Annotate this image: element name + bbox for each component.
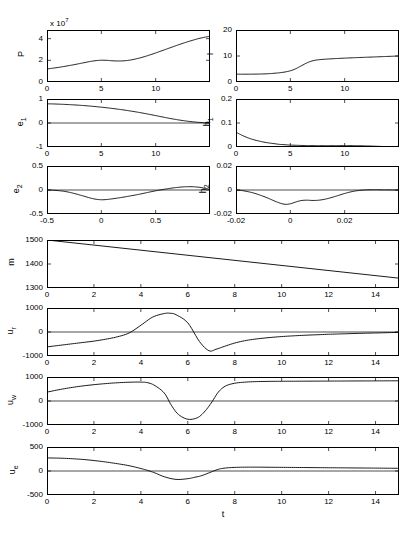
x-tick-label: 8 — [221, 358, 249, 367]
x-tick-label: 14 — [362, 427, 390, 436]
x-tick-label: 0 — [33, 149, 61, 158]
x-tick-label: 12 — [315, 358, 343, 367]
y-axis-label-P: P — [16, 42, 26, 66]
data-series-h1 — [236, 132, 399, 147]
x-tick-label: 6 — [174, 427, 202, 436]
x-tick-label: -0.5 — [33, 216, 61, 225]
plot-area-h2 — [236, 166, 399, 214]
y-tick-label: 1500 — [3, 235, 43, 244]
data-series-P — [47, 36, 210, 69]
data-series-m — [47, 240, 399, 278]
x-tick-label: 6 — [174, 497, 202, 506]
data-series-e1 — [47, 104, 210, 123]
x-tick-label: -0.02 — [222, 216, 250, 225]
plot-area-uw — [47, 377, 399, 425]
data-series-e2 — [47, 187, 210, 200]
x-tick-label: 0 — [87, 216, 115, 225]
x-axis-label: t — [208, 509, 238, 519]
x-tick-label: 2 — [80, 427, 108, 436]
subplot-ue — [47, 447, 399, 495]
y-tick-label: 1 — [3, 94, 43, 103]
data-series-uw — [47, 381, 399, 420]
y-axis-label-h1: h1 — [202, 110, 214, 134]
plot-area-P — [47, 30, 210, 82]
y-tick-label: 1000 — [3, 303, 43, 312]
x-tick-label: 5 — [87, 84, 115, 93]
x-tick-label: 14 — [362, 358, 390, 367]
x-tick-label: 4 — [127, 358, 155, 367]
x-tick-label: 0 — [33, 290, 61, 299]
x-tick-label: 0 — [33, 358, 61, 367]
data-series-ue — [47, 458, 399, 480]
subplot-uw — [47, 377, 399, 425]
x-tick-label: 10 — [268, 290, 296, 299]
subplot-e1 — [47, 99, 210, 147]
y-tick-label: 500 — [3, 442, 43, 451]
x-tick-label: 0 — [33, 427, 61, 436]
subplot-m — [47, 240, 399, 288]
x-tick-label: 6 — [174, 358, 202, 367]
x-tick-label: 2 — [80, 358, 108, 367]
x-tick-label: 14 — [362, 290, 390, 299]
y-axis-exponent: x 107 — [50, 17, 68, 28]
x-tick-label: 10 — [268, 358, 296, 367]
plot-area-h1 — [236, 99, 399, 147]
x-tick-label: 0 — [222, 149, 250, 158]
x-tick-label: 6 — [174, 290, 202, 299]
x-tick-label: 10 — [331, 84, 359, 93]
x-tick-label: 4 — [127, 290, 155, 299]
y-axis-label-e2: e2 — [11, 177, 23, 201]
y-axis-label-h2: h2 — [198, 177, 210, 201]
x-tick-label: 0 — [33, 497, 61, 506]
x-tick-label: 0 — [222, 84, 250, 93]
subplot-P — [47, 30, 210, 82]
x-tick-label: 10 — [331, 149, 359, 158]
y-axis-label-uw: uw — [5, 388, 17, 412]
subplot-h2 — [236, 166, 399, 214]
figure-canvas: 0240510P010200510I-1010510e100.10.20510h… — [0, 0, 405, 539]
y-axis-label-ur: ur — [5, 319, 17, 343]
data-series-h2 — [236, 190, 399, 205]
x-tick-label: 4 — [127, 497, 155, 506]
x-tick-label: 8 — [221, 427, 249, 436]
y-tick-label: 20 — [192, 25, 232, 34]
x-tick-label: 5 — [87, 149, 115, 158]
subplot-ur — [47, 308, 399, 356]
plot-area-ue — [47, 447, 399, 495]
x-tick-label: 10 — [142, 84, 170, 93]
plot-area-I — [236, 30, 399, 82]
data-series-I — [236, 56, 399, 74]
plot-area-ur — [47, 308, 399, 356]
x-tick-label: 12 — [315, 497, 343, 506]
x-tick-label: 2 — [80, 290, 108, 299]
y-axis-label-e1: e1 — [15, 110, 27, 134]
y-tick-label: 0.02 — [192, 161, 232, 170]
x-tick-label: 8 — [221, 497, 249, 506]
y-tick-label: 0.2 — [192, 94, 232, 103]
y-tick-label: 0.5 — [3, 161, 43, 170]
subplot-e2 — [47, 166, 210, 214]
x-tick-label: 0 — [276, 216, 304, 225]
x-tick-label: 0.5 — [142, 216, 170, 225]
x-tick-label: 12 — [315, 290, 343, 299]
x-tick-label: 10 — [268, 497, 296, 506]
y-axis-label-I: I — [205, 42, 215, 66]
x-tick-label: 8 — [221, 290, 249, 299]
x-tick-label: 2 — [80, 497, 108, 506]
y-axis-label-ue: ue — [7, 458, 19, 482]
x-tick-label: 0.02 — [331, 216, 359, 225]
y-axis-label-m: m — [6, 250, 16, 274]
x-tick-label: 5 — [276, 84, 304, 93]
x-tick-label: 5 — [276, 149, 304, 158]
x-tick-label: 14 — [362, 497, 390, 506]
subplot-I — [236, 30, 399, 82]
y-tick-label: 1000 — [3, 372, 43, 381]
x-tick-label: 0 — [33, 84, 61, 93]
plot-area-e1 — [47, 99, 210, 147]
plot-area-m — [47, 240, 399, 288]
x-tick-label: 4 — [127, 427, 155, 436]
y-tick-label: 0 — [3, 185, 43, 194]
x-tick-label: 10 — [268, 427, 296, 436]
x-tick-label: 12 — [315, 427, 343, 436]
subplot-h1 — [236, 99, 399, 147]
